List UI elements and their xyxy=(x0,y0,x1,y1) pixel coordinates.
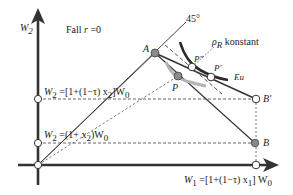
point-p xyxy=(174,72,182,80)
point-p-double-prime xyxy=(188,63,196,71)
point-p-prime xyxy=(207,73,215,81)
label-p-prime: P' xyxy=(214,64,221,73)
budget-line-a-b xyxy=(155,53,255,143)
rho-label: ρR konstant xyxy=(212,37,259,50)
upper-level-label: W2 =[1+(1−τ) x2]W0 xyxy=(44,87,130,100)
label-p-double-prime: P" xyxy=(194,55,203,64)
point-y-lower xyxy=(34,139,41,146)
label-b: B xyxy=(263,138,269,148)
label-eu: Eu xyxy=(234,73,244,82)
label-b-prime: B' xyxy=(263,94,271,104)
label-a: A xyxy=(143,44,149,54)
point-y-upper xyxy=(34,95,41,102)
angle-label: 45° xyxy=(186,14,200,24)
label-p: P xyxy=(172,83,178,93)
point-a xyxy=(151,49,159,57)
case-label: Fall r =0 xyxy=(66,25,101,35)
point-origin xyxy=(34,161,41,168)
point-b-prime xyxy=(252,95,260,103)
point-b xyxy=(251,139,259,147)
x-axis-label: W1 =[1+(1−τ) x1] W0 xyxy=(184,175,272,188)
lower-level-label: W2 =(1+ x2)W0 xyxy=(44,130,108,143)
point-x-axis-b xyxy=(252,161,260,169)
y-axis-label: W2 xyxy=(20,23,33,36)
